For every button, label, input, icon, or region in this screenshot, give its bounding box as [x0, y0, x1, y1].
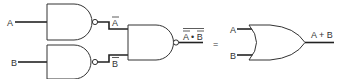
or-gate	[249, 25, 305, 60]
input-a-label: A	[7, 18, 13, 28]
inversion-bubble-a	[92, 19, 97, 24]
or-output-label: A + B	[311, 30, 333, 40]
inversion-bubble-b	[92, 59, 97, 64]
svg-text:B: B	[112, 59, 118, 69]
input-b-label: B	[11, 58, 17, 68]
a-bar-label: A	[112, 17, 119, 28]
svg-text:A: A	[112, 18, 118, 28]
nand-output-label: A • B	[183, 29, 204, 43]
nand-gate-combine	[128, 25, 179, 60]
b-bar-label: B	[112, 58, 119, 70]
or-input-b-label: B	[230, 51, 236, 61]
inversion-bubble-out	[173, 40, 178, 45]
or-input-a-label: A	[230, 25, 236, 35]
nand-gate-b	[47, 45, 98, 79]
svg-text:A • B: A • B	[183, 32, 203, 42]
logic-diagram: A B A B A • B = A B	[0, 0, 344, 79]
nand-gate-a	[47, 4, 98, 40]
equals-sign: =	[213, 39, 218, 49]
